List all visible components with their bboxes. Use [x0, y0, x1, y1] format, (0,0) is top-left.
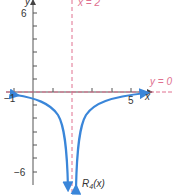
function-label: R4(x): [82, 178, 105, 190]
tick-label-x-neg1: −1: [4, 93, 16, 104]
svg-text:R4(x): R4(x): [82, 178, 105, 190]
tick-label-y-neg6: −6: [14, 167, 26, 178]
tick-label-x-5: 5: [128, 95, 134, 106]
rational-function-graph: y x 6 −6 −1 5 x = 2 y = 0 R4(x): [0, 0, 184, 196]
y-axis-label: y: [24, 0, 31, 7]
x-axis-label: x: [144, 91, 151, 102]
tick-label-y-6: 6: [21, 8, 27, 19]
vertical-asymptote-label: x = 2: [77, 0, 100, 8]
horizontal-asymptote-label: y = 0: [149, 76, 172, 87]
curve-right-branch: [76, 93, 146, 188]
